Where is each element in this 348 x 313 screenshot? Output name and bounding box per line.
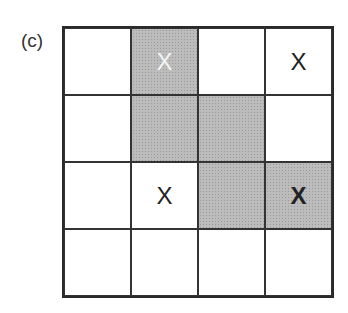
cell-r0-c0 [64,28,131,95]
cell-r1-c2 [198,95,265,162]
cell-r3-c2 [198,229,265,296]
cell-r2-c3: X [265,162,332,229]
cell-mark: X [156,48,172,76]
cell-r2-c0 [64,162,131,229]
cell-r0-c3: X [265,28,332,95]
grid-diagram: X X X X [62,26,334,298]
cell-r1-c1 [131,95,198,162]
cell-mark: X [290,182,306,210]
cell-r1-c0 [64,95,131,162]
cell-r2-c1: X [131,162,198,229]
cell-r1-c3 [265,95,332,162]
cell-mark: X [156,182,172,210]
cell-r0-c2 [198,28,265,95]
cell-r3-c0 [64,229,131,296]
cell-r2-c2 [198,162,265,229]
panel-label: (c) [21,30,43,52]
cell-r3-c3 [265,229,332,296]
cell-r3-c1 [131,229,198,296]
cell-mark: X [290,48,306,76]
cell-r0-c1: X [131,28,198,95]
